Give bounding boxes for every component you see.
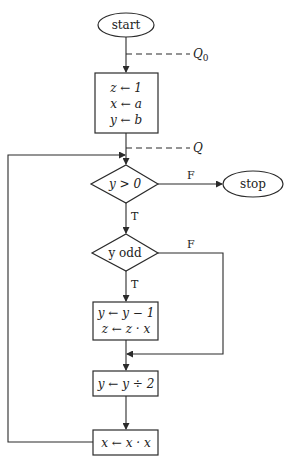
node-stop: stop bbox=[223, 171, 283, 197]
edge-loop-back bbox=[8, 155, 125, 442]
svg-text:start: start bbox=[112, 18, 141, 32]
edge-label-positive-true: T bbox=[131, 210, 139, 223]
node-start: start bbox=[98, 13, 154, 37]
node-init: z ← 1 x ← a y ← b bbox=[95, 73, 158, 133]
assertion-q-label: Q bbox=[193, 141, 203, 155]
node-odd-step: y ← y − 1 z ← z · x bbox=[93, 302, 158, 340]
svg-text:y odd: y odd bbox=[107, 246, 142, 260]
svg-text:y > 0: y > 0 bbox=[108, 177, 141, 191]
flowchart: Q0 Q start z ← 1 x ← a y ← b y > 0 stop … bbox=[0, 0, 294, 462]
odd-step-line-1: y ← y − 1 bbox=[97, 306, 155, 320]
init-line-2: x ← a bbox=[110, 97, 142, 111]
edge-label-odd-false: F bbox=[187, 238, 195, 251]
node-halve: y ← y ÷ 2 bbox=[93, 371, 158, 396]
assertion-q0-label: Q0 bbox=[193, 47, 209, 63]
svg-text:x ← x · x: x ← x · x bbox=[101, 436, 151, 450]
edge-label-odd-true: T bbox=[131, 278, 139, 291]
node-square: x ← x · x bbox=[93, 430, 158, 455]
edge-label-positive-false: F bbox=[187, 169, 195, 182]
init-line-1: z ← 1 bbox=[109, 81, 142, 95]
node-cond-odd: y odd bbox=[92, 234, 158, 271]
svg-text:y ← y ÷ 2: y ← y ÷ 2 bbox=[97, 377, 155, 391]
svg-text:stop: stop bbox=[240, 177, 266, 191]
init-line-3: y ← b bbox=[109, 113, 142, 127]
odd-step-line-2: z ← z · x bbox=[101, 322, 151, 336]
node-cond-positive: y > 0 bbox=[91, 165, 158, 203]
